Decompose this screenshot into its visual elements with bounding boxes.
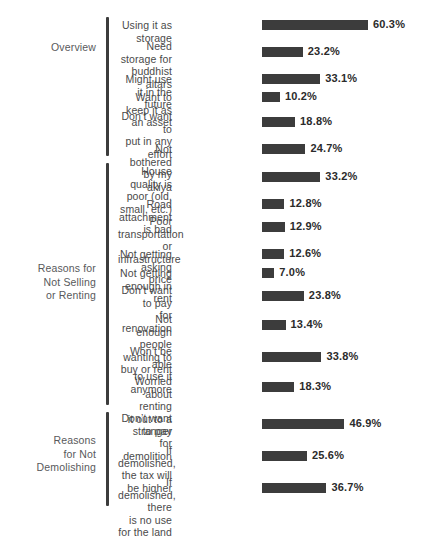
bar-value-label: 33.2% (325, 170, 357, 182)
bar-track: 24.7% (262, 144, 305, 154)
bar-track: 33.8% (262, 352, 321, 362)
bar-value-label: 23.8% (309, 289, 341, 301)
group-label: Reasons for Not Demolishing (0, 434, 96, 475)
bar (262, 47, 303, 57)
bar-track: 60.3% (262, 20, 368, 30)
bar (262, 222, 285, 232)
bar-track: 23.8% (262, 291, 304, 301)
bar-track: 12.6% (262, 249, 284, 259)
bar-value-label: 46.9% (349, 417, 381, 429)
bar-track: 25.6% (262, 451, 307, 461)
bar-value-label: 12.8% (289, 197, 321, 209)
bar (262, 199, 284, 209)
group-label: Reasons for Not Selling or Renting (0, 262, 96, 303)
bar-track: 12.8% (262, 199, 284, 209)
bar-track: 12.9% (262, 222, 285, 232)
bar-track: 36.7% (262, 483, 326, 493)
bar (262, 172, 320, 182)
bar (262, 451, 307, 461)
bar (262, 117, 295, 127)
bar-track: 33.1% (262, 74, 320, 84)
group-bracket-rule (106, 412, 109, 506)
bar-value-label: 13.4% (291, 318, 323, 330)
bar-value-label: 18.3% (299, 380, 331, 392)
bar-track: 10.2% (262, 92, 280, 102)
bar (262, 419, 344, 429)
bar (262, 144, 305, 154)
bar-value-label: 7.0% (279, 266, 305, 278)
bar (262, 268, 274, 278)
bar-track: 18.8% (262, 117, 295, 127)
bar-track: 46.9% (262, 419, 344, 429)
bar-track: 7.0% (262, 268, 274, 278)
bar (262, 291, 304, 301)
bar-value-label: 60.3% (373, 18, 405, 30)
bar-value-label: 25.6% (312, 449, 344, 461)
bar-value-label: 12.9% (290, 220, 322, 232)
bar-value-label: 24.7% (310, 142, 342, 154)
bar-value-label: 23.2% (308, 45, 340, 57)
bar (262, 320, 286, 330)
bar (262, 92, 280, 102)
bar-track: 33.2% (262, 172, 320, 182)
bar-value-label: 12.6% (289, 247, 321, 259)
bar (262, 249, 284, 259)
group-label: Overview (0, 41, 96, 55)
bar (262, 382, 294, 392)
group-bracket-rule (106, 17, 109, 156)
bar-value-label: 18.8% (300, 115, 332, 127)
bar-value-label: 33.1% (325, 72, 357, 84)
group-bracket-rule (106, 163, 109, 405)
bar (262, 483, 326, 493)
bar (262, 20, 368, 30)
bar (262, 352, 321, 362)
bar (262, 74, 320, 84)
category-label: If demolished, there is no use for the l… (118, 476, 172, 539)
bar-value-label: 33.8% (326, 350, 358, 362)
bar-track: 13.4% (262, 320, 286, 330)
bar-track: 23.2% (262, 47, 303, 57)
bar-value-label: 36.7% (331, 481, 363, 493)
bar-value-label: 10.2% (285, 90, 317, 102)
bar-track: 18.3% (262, 382, 294, 392)
